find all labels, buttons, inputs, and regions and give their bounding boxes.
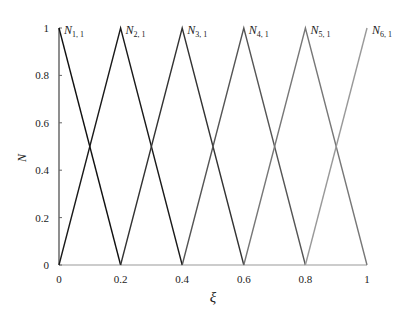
series-label: N2, 1 [125, 23, 146, 39]
y-tick-labels: 00.20.40.60.81 [35, 22, 62, 271]
x-tick-label: 0 [56, 273, 62, 285]
series-line [182, 28, 305, 265]
x-axis-label: ξ [210, 289, 217, 305]
x-tick-label: 0.4 [175, 273, 189, 285]
x-tick-labels: 00.20.40.60.81 [56, 273, 370, 285]
series-label: N4, 1 [248, 23, 269, 39]
y-tick-label: 0.8 [35, 69, 49, 81]
chart: 00.20.40.60.81 00.20.40.60.81 N1, 1N2, 1… [0, 0, 405, 324]
x-tick-label: 0.2 [114, 273, 128, 285]
series-label: N6, 1 [371, 23, 392, 39]
y-axis-label: N [15, 153, 29, 163]
series-lines [59, 28, 367, 265]
x-tick-label: 1 [364, 273, 370, 285]
series-labels: N1, 1N2, 1N3, 1N4, 1N5, 1N6, 1 [63, 23, 392, 39]
series-label: N5, 1 [309, 23, 330, 39]
y-tick-label: 0.6 [35, 117, 49, 129]
y-tick-label: 0.4 [35, 164, 49, 176]
series-line [59, 28, 182, 265]
series-label: N3, 1 [186, 23, 207, 39]
y-tick-label: 1 [44, 22, 50, 34]
series-line [121, 28, 244, 265]
x-tick-label: 0.8 [299, 273, 313, 285]
y-tick-label: 0.2 [35, 212, 49, 224]
y-tick-label: 0 [44, 259, 50, 271]
series-label: N1, 1 [63, 23, 84, 39]
x-tick-label: 0.6 [237, 273, 251, 285]
series-line [244, 28, 367, 265]
